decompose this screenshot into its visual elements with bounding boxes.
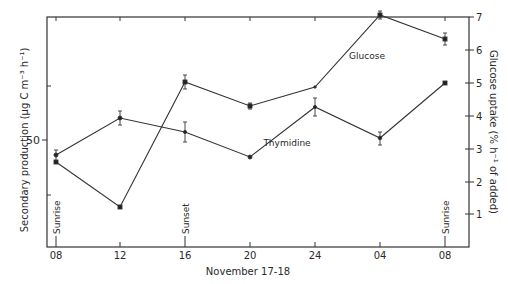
right-tick-3: 3 <box>476 144 482 155</box>
right-tick-1: 1 <box>476 209 482 220</box>
x-tick-12: 12 <box>114 250 127 261</box>
glucose-line <box>56 15 445 207</box>
right-tick-2: 2 <box>476 177 482 188</box>
x-axis-title: November 17-18 <box>206 266 290 277</box>
event-markers <box>56 236 445 242</box>
thymidine-points <box>54 81 447 160</box>
x-tick-24: 24 <box>309 250 322 261</box>
y-axis-left-title: Secondary production (µg C m⁻³ h⁻¹) <box>19 48 30 233</box>
right-axis-labels: 7 6 5 4 3 2 1 <box>476 12 482 220</box>
right-tick-6: 6 <box>476 45 482 56</box>
sunset-label: Sunset <box>181 203 191 234</box>
glucose-points <box>54 11 447 209</box>
glucose-label: Glucose <box>349 51 385 61</box>
x-tick-08b: 08 <box>439 250 452 261</box>
x-tick-08: 08 <box>50 250 63 261</box>
sunrise-label-2: Sunrise <box>441 200 451 234</box>
sunrise-label-1: Sunrise <box>52 200 62 234</box>
thymidine-line <box>56 83 445 157</box>
right-tick-7: 7 <box>476 12 482 23</box>
right-tick-4: 4 <box>476 111 482 122</box>
thymidine-label: Thymidine <box>262 138 311 148</box>
x-tick-04: 04 <box>374 250 387 261</box>
x-axis-labels: 08 12 16 20 24 04 08 <box>50 250 452 261</box>
x-tick-20: 20 <box>244 250 257 261</box>
plot-frame <box>47 17 469 247</box>
y-axis-right-title: Glucose uptake (% h⁻¹ of added) <box>488 50 499 214</box>
chart: 50 7 6 5 4 3 2 1 08 12 16 20 24 04 08 No <box>0 0 508 284</box>
x-tick-16: 16 <box>179 250 192 261</box>
right-tick-5: 5 <box>476 78 482 89</box>
